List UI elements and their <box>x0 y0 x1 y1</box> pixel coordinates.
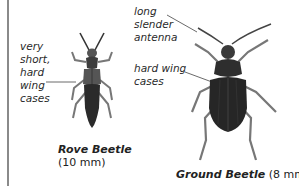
antenna-leader-line <box>167 15 197 32</box>
beetle-illustrations <box>0 0 299 186</box>
rove-beetle-icon <box>72 33 112 128</box>
ground-beetle-caption: Ground Beetle (8 mm) <box>176 168 299 181</box>
rove-beetle-size: (10 mm) <box>58 156 106 169</box>
ground-beetle-icon <box>192 24 276 160</box>
wing-leader-line <box>185 72 212 82</box>
ground-beetle-name: Ground Beetle <box>176 168 265 181</box>
rove-beetle-caption: Rove Beetle (10 mm) <box>58 143 132 169</box>
rove-beetle-name: Rove Beetle <box>58 143 132 156</box>
ground-beetle-size: (8 mm) <box>269 168 299 181</box>
